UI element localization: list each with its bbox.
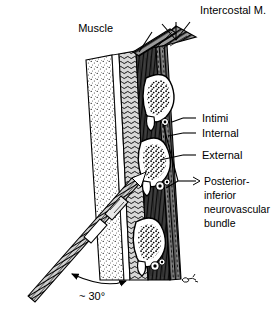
figure-canvas: ~ 30° Muscle Intercostal M. Intimi Inter… bbox=[0, 0, 279, 309]
bundle-line-3: neurovascular bbox=[204, 203, 270, 215]
bundle-line-4: bundle bbox=[204, 217, 236, 229]
label-external: External bbox=[202, 149, 242, 161]
neurovascular-bundle-1 bbox=[161, 118, 168, 125]
anatomical-figure: ~ 30° Muscle Intercostal M. Intimi Inter… bbox=[0, 0, 279, 309]
bundle-line-2: inferior bbox=[204, 189, 237, 201]
label-intimi: Intimi bbox=[202, 112, 228, 124]
label-internal: Internal bbox=[202, 127, 239, 139]
angle-label: ~ 30° bbox=[79, 290, 105, 302]
label-intercostal-muscle: Intercostal M. bbox=[200, 4, 266, 16]
bundle-line-1: Posterior- bbox=[204, 175, 250, 187]
label-muscle: Muscle bbox=[78, 22, 113, 34]
